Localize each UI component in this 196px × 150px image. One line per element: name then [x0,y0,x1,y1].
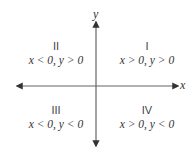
quadrant-1-numeral: I [102,40,192,53]
quadrant-2: II x < 0, y > 0 [11,40,101,67]
y-axis-label: y [93,8,98,21]
x-axis-label: x [180,79,185,92]
quadrant-2-condition: x < 0, y > 0 [11,53,101,67]
quadrant-1: I x > 0, y > 0 [102,40,192,67]
quadrant-4-condition: x > 0, y < 0 [102,117,192,131]
quadrant-4: IV x > 0, y < 0 [102,104,192,131]
quadrant-3-condition: x < 0, y < 0 [11,117,101,131]
quadrant-4-numeral: IV [102,104,192,117]
quadrant-1-condition: x > 0, y > 0 [102,53,192,67]
quadrant-2-numeral: II [11,40,101,53]
quadrant-3: III x < 0, y < 0 [11,104,101,131]
quadrant-3-numeral: III [11,104,101,117]
